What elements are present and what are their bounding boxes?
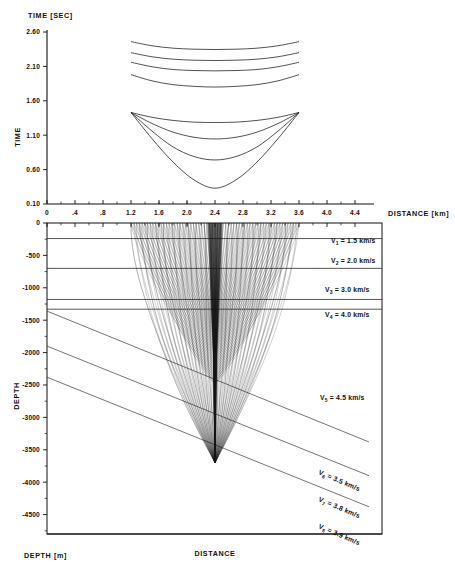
figure-canvas: TIME [SEC]2.602.101.601.100.600.10TIME0.… [0, 0, 455, 587]
traveltime-curve-4 [131, 75, 299, 87]
distance-tick-label: 3.6 [294, 209, 304, 216]
velocity-label-text-5: V5 = 4.5 km/s [320, 394, 365, 403]
distance-axis-label: DISTANCE [km] [388, 209, 449, 218]
distance-tick-label: 4.0 [322, 209, 332, 216]
distance-tick-label: .4 [72, 209, 78, 216]
depth-tick-label: -1000 [22, 284, 40, 291]
depth-units-label: DEPTH [m] [24, 551, 67, 560]
distance-tick-label: 2.0 [182, 209, 192, 216]
velocity-label-4: V4 = 4.0 km/s [325, 311, 370, 320]
depth-tick-label: -2500 [22, 381, 40, 388]
time-tick-label: 1.60 [26, 97, 40, 104]
time-tick-label: 0.60 [26, 166, 40, 173]
velocity-label-2: V2 = 2.0 km/s [331, 257, 376, 266]
velocity-label-3: V3 = 3.0 km/s [325, 286, 370, 295]
traveltime-curve-8 [131, 113, 299, 189]
time-tick-label: 0.10 [26, 200, 40, 207]
velocity-label-text-2: V2 = 2.0 km/s [331, 257, 376, 266]
velocity-label-text-6: V6 = 3.5 km/s [317, 468, 361, 494]
distance-tick-label: 2.4 [210, 209, 220, 216]
depth-tick-label: -4000 [22, 479, 40, 486]
bottom-distance-label: DISTANCE [194, 549, 235, 558]
velocity-label-text-3: V3 = 3.0 km/s [325, 286, 370, 295]
distance-tick-label: .8 [100, 209, 106, 216]
depth-axis-label: DEPTH [12, 382, 21, 409]
depth-tick-label: -500 [26, 252, 40, 259]
traveltime-curve-6 [131, 113, 299, 139]
traveltime-curve-1 [131, 42, 299, 50]
time-tick-label: 1.10 [26, 132, 40, 139]
depth-tick-label: -2000 [22, 349, 40, 356]
velocity-label-7: V7 = 3.8 km/s [317, 495, 361, 521]
distance-tick-label: 1.2 [126, 209, 136, 216]
depth-tick-label: -3000 [22, 414, 40, 421]
distance-tick-label: 0 [45, 209, 49, 216]
velocity-label-text-8: V8 = 3.9 km/s [317, 522, 361, 548]
distance-tick-label: 1.6 [154, 209, 164, 216]
depth-tick-label: 0 [36, 219, 40, 226]
velocity-label-8: V8 = 3.9 km/s [317, 522, 361, 548]
time-tick-label: 2.60 [26, 28, 40, 35]
time-axis-header: TIME [SEC] [28, 11, 73, 20]
distance-tick-label: 2.8 [238, 209, 248, 216]
ray-path-group [131, 223, 299, 463]
ray-path [147, 223, 215, 463]
time-axis-label: TIME [13, 127, 22, 147]
ray-path [142, 223, 215, 463]
traveltime-curve-7 [131, 113, 299, 160]
traveltime-curve-3 [131, 62, 299, 71]
traveltime-curve-2 [131, 53, 299, 61]
traveltime-curve-5 [131, 113, 299, 123]
velocity-label-group: V1 = 1.5 km/sV2 = 2.0 km/sV3 = 3.0 km/sV… [317, 237, 376, 548]
time-tick-label: 2.10 [26, 63, 40, 70]
depth-tick-label: -3500 [22, 446, 40, 453]
velocity-label-6: V6 = 3.5 km/s [317, 468, 361, 494]
depth-tick-label: -4500 [22, 511, 40, 518]
velocity-label-text-4: V4 = 4.0 km/s [325, 311, 370, 320]
velocity-label-5: V5 = 4.5 km/s [320, 394, 365, 403]
distance-tick-label: 3.2 [266, 209, 276, 216]
velocity-label-text-7: V7 = 3.8 km/s [317, 495, 361, 521]
distance-tick-label: 4.4 [350, 209, 360, 216]
seismic-raytracing-figure: TIME [SEC]2.602.101.601.100.600.10TIME0.… [0, 0, 455, 587]
depth-tick-label: -1500 [22, 317, 40, 324]
